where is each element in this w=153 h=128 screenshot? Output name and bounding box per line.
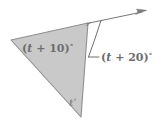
geometry-figure-container: (t + 10)° (t + 20)° t° <box>0 0 153 128</box>
geometry-figure: (t + 10)° (t + 20)° t° <box>0 0 153 128</box>
label-exterior-angle-operator: + <box>111 51 128 64</box>
label-exterior-angle-degree-icon: ° <box>149 51 153 60</box>
label-exterior-angle: (t + 20)° <box>101 51 152 65</box>
label-left-angle: (t + 10)° <box>22 42 73 56</box>
label-left-angle-constant: 10 <box>49 42 65 55</box>
label-exterior-angle-constant: 20 <box>128 51 144 64</box>
label-left-angle-degree-icon: ° <box>70 42 74 51</box>
label-left-angle-operator: + <box>32 42 49 55</box>
label-bottom-angle-degree-icon: ° <box>73 97 76 104</box>
